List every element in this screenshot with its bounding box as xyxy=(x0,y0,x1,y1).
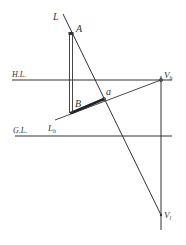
label-GL: G.L. xyxy=(13,126,27,135)
point-B-marker xyxy=(70,112,72,114)
label-Lh: Lh xyxy=(47,123,56,134)
label-B: B xyxy=(75,98,81,109)
point-A-marker xyxy=(69,32,74,35)
point-Vl-marker xyxy=(160,214,162,216)
label-Vl-sub: l xyxy=(170,215,172,221)
label-Vh-sub: h xyxy=(170,75,173,81)
line-L xyxy=(63,14,161,215)
label-HL: H.L. xyxy=(11,70,26,79)
label-Vl: Vl xyxy=(164,210,172,221)
label-L: L xyxy=(52,11,59,22)
perspective-diagram: L A H.L. B a G.L. Lh Vh Vl xyxy=(0,0,186,245)
label-a: a xyxy=(106,86,111,97)
label-Vh: Vh xyxy=(164,70,173,81)
label-Lh-sub: h xyxy=(53,128,56,134)
label-A: A xyxy=(75,23,83,34)
